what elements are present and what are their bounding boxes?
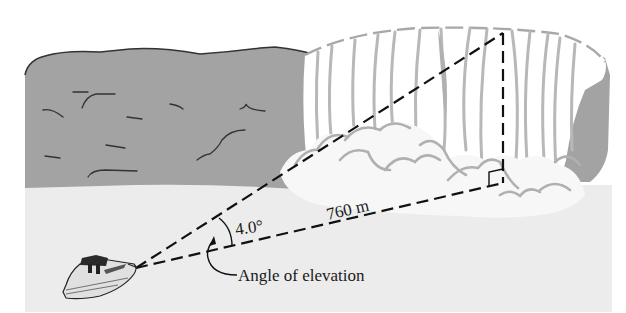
cliff-left [25, 47, 312, 190]
angle-label: 4.0° [234, 216, 264, 239]
angle-of-elevation-caption: Angle of elevation [238, 266, 365, 285]
waterfall-elevation-diagram: 4.0° 760 m Angle of elevation [0, 0, 626, 313]
